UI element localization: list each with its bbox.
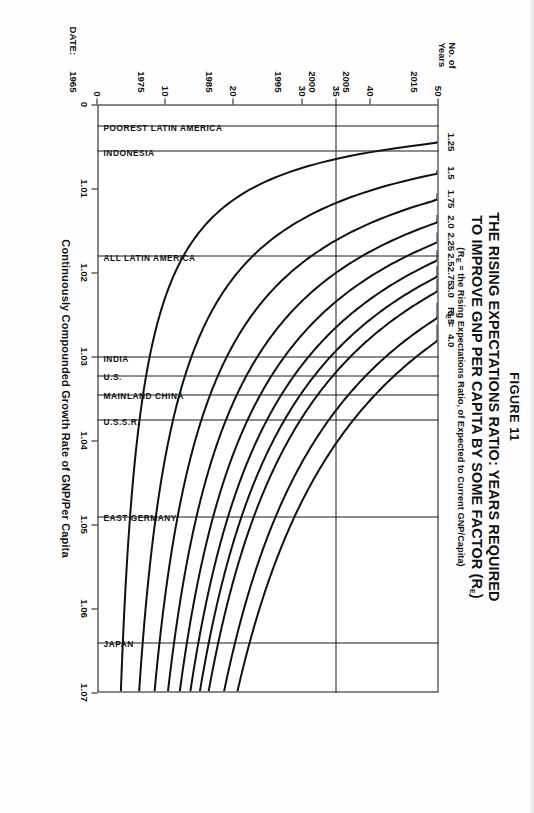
figure-subtitle-post: = the Rising Expectations Ratio, of Expe… [455, 262, 465, 566]
re-legend-label-3-0: 3.0 [445, 284, 456, 297]
y-tick-label-0: 0 [92, 74, 103, 96]
curve-re-2.0 [167, 214, 437, 691]
x-tick-label-7: 1.07 [78, 683, 89, 702]
figure-subtitle: (RE = the Rising Expectations Ratio, of … [454, 0, 465, 813]
country-label-0: POOREST LATIN AMERICA [103, 122, 222, 132]
date-tick-label-2: 1985 [204, 46, 215, 92]
date-axis-name: DATE: [68, 26, 79, 55]
figure-title-line2: TO IMPROVE GNP PER CAPITA BY SOME FACTOR… [469, 215, 485, 589]
figure-number: FIGURE 11 [506, 0, 520, 813]
x-tick-3 [91, 356, 97, 357]
country-label-5: MAINLAND CHINA [103, 390, 184, 400]
curve-re-1.25 [120, 140, 437, 691]
y-tick-4 [335, 98, 336, 104]
reference-line-35-years [335, 104, 336, 692]
y-tick-label-5: 40 [364, 74, 375, 96]
curve-re-1.75 [154, 193, 437, 691]
x-tick-label-1: 1.01 [78, 179, 89, 198]
x-tick-2 [91, 272, 97, 273]
re-legend-label-2-5: 2.5 [445, 253, 456, 266]
x-tick-label-3: 1.03 [78, 347, 89, 366]
re-legend-label-2-0: 2.0 [445, 215, 456, 228]
x-tick-label-4: 1.04 [78, 431, 89, 450]
country-line-3 [97, 356, 438, 357]
figure-page: FIGURE 11 THE RISING EXPECTATIONS RATIO:… [0, 0, 534, 813]
x-tick-6 [91, 608, 97, 609]
country-line-8 [97, 642, 438, 643]
figure-inner: FIGURE 11 THE RISING EXPECTATIONS RATIO:… [0, 0, 534, 813]
y-tick-label-6: 50 [433, 74, 444, 96]
country-line-4 [97, 375, 438, 376]
re-legend-label-1-25: 1.25 [445, 132, 456, 151]
re-legend-label-2-25: 2.25 [445, 232, 456, 251]
country-label-1: INDONESIA [103, 147, 154, 157]
curve-re-1.5 [139, 169, 437, 691]
figure-title: THE RISING EXPECTATIONS RATIO: YEARS REQ… [463, 0, 501, 813]
country-label-2: ALL LATIN AMERICA [103, 252, 195, 262]
re-legend-label-2-75: 2.75 [445, 266, 456, 285]
x-tick-label-2: 1.02 [78, 263, 89, 282]
x-tick-1 [91, 188, 97, 189]
re-legend-label-1-75: 1.75 [445, 189, 456, 208]
rotated-figure-container: FIGURE 11 THE RISING EXPECTATIONS RATIO:… [0, 0, 534, 813]
curve-re-4.0 [237, 324, 437, 691]
y-tick-3 [301, 98, 302, 104]
y-tick-1 [164, 98, 165, 104]
date-tick-label-1: 1975 [136, 46, 147, 92]
y-tick-label-1: 10 [160, 74, 171, 96]
x-tick-label-0: 0 [78, 101, 89, 106]
country-label-3: INDIA [103, 353, 128, 363]
y-tick-5 [369, 98, 370, 104]
y-tick-label-2: 20 [228, 74, 239, 96]
country-label-7: EAST GERMANY [103, 512, 176, 522]
re-legend-label-4-0: 4.0 [445, 334, 456, 347]
curve-re-2.75 [199, 265, 437, 691]
y-axis-title-line2: Years [436, 42, 446, 68]
y-axis-title-line1: No. of [446, 42, 456, 68]
y-tick-0 [96, 98, 97, 104]
date-tick-label-6: 2015 [409, 46, 420, 92]
y-axis-title: No. of Years [436, 42, 456, 68]
figure-subtitle-pre: (R [455, 247, 465, 258]
date-tick-label-4: 2000 [306, 46, 317, 92]
figure-title-line1: THE RISING EXPECTATIONS RATIO: YEARS REQ… [485, 212, 501, 601]
x-tick-label-5: 1.05 [78, 515, 89, 534]
re-legend-label-1-5: 1.5 [445, 166, 456, 179]
x-axis-title: Continuously Compounded Growth Rate of G… [59, 104, 71, 692]
re-legend-label-3-5: 3.5 [445, 310, 456, 323]
y-tick-label-4: 35 [330, 74, 341, 96]
x-tick-label-6: 1.06 [78, 599, 89, 618]
country-line-6 [97, 419, 438, 420]
x-tick-5 [91, 524, 97, 525]
x-tick-4 [91, 440, 97, 441]
date-tick-label-5: 2005 [340, 46, 351, 92]
date-tick-label-3: 1995 [272, 46, 283, 92]
y-tick-label-3: 30 [296, 74, 307, 96]
x-tick-7 [91, 692, 97, 693]
country-label-4: U.S. [103, 371, 121, 381]
figure-title-line2-end: ) [469, 593, 485, 598]
y-tick-6 [437, 98, 438, 104]
country-label-8: JAPAN [103, 638, 133, 648]
y-tick-2 [232, 98, 233, 104]
country-label-6: U.S.S.R. [103, 416, 140, 426]
